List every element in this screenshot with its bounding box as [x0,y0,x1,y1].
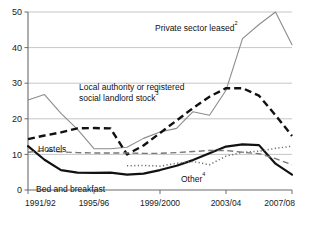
annotation-la-rsl-stock-line1: Local authority or registered [79,82,185,92]
x-axis-tick-labels: 1991/921995/961999/20002003/042007/08 [25,198,295,208]
series-line-bed-and-breakfast [28,144,292,174]
annotation-group: Private sector leased2Local authority or… [36,20,237,194]
y-tick-label-0: 0 [17,185,22,195]
y-tick-label-10: 10 [12,150,22,160]
series-line-hostels [28,150,292,164]
y-tick-label-20: 20 [12,114,22,124]
series-group [28,12,292,175]
y-axis-tick-labels: 01020304050 [12,7,22,195]
x-tick-label-2007-08: 2007/08 [264,198,295,208]
y-tick-label-40: 40 [12,43,22,53]
chart-container: 01020304050 1991/921995/961999/20002003/… [0,0,317,225]
annotation-private-sector-leased: Private sector leased2 [155,20,237,33]
y-tick-label-50: 50 [12,7,22,17]
x-tick-label-1999-2000: 1999/2000 [140,198,180,208]
annotation-other: Other4 [181,171,205,184]
axis-group [25,12,293,194]
y-tick-label-30: 30 [12,78,22,88]
x-tick-label-1991-92: 1991/92 [25,198,56,208]
annotation-hostels: Hostels [38,144,66,154]
annotation-bed-and-breakfast: Bed and breakfast [36,184,106,194]
x-tick-label-1995-96: 1995/96 [79,198,110,208]
x-tick-label-2003-04: 2003/04 [211,198,242,208]
line-chart: 01020304050 1991/921995/961999/20002003/… [0,0,317,225]
